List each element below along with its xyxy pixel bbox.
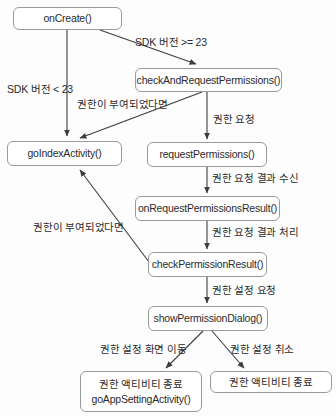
node-goindexactivity: goIndexActivity() — [7, 141, 122, 166]
node-onrequestpermissionsresult: onRequestPermissionsResult() — [135, 196, 280, 221]
node-goappsettingactivity-label-line2: goAppSettingActivity() — [92, 392, 191, 406]
node-oncreate: onCreate() — [13, 7, 122, 30]
node-checkandrequestpermissions-label: checkAndRequestPermissions() — [137, 73, 281, 87]
node-requestpermissions-label: requestPermissions() — [159, 147, 254, 161]
node-goindexactivity-label: goIndexActivity() — [27, 146, 101, 160]
node-goappsettingactivity: 권한 액티비티 종료 goAppSettingActivity() — [80, 371, 202, 412]
node-checkpermissionresult-label: checkPermissionResult() — [152, 257, 264, 271]
edge-label-permission-request: 권한 요청 — [213, 111, 255, 126]
node-checkpermissionresult: checkPermissionResult() — [148, 252, 267, 277]
node-requestpermissions: requestPermissions() — [147, 142, 267, 167]
node-goappsettingactivity-label-line1: 권한 액티비티 종료 — [99, 377, 183, 391]
edge-label-permission-granted-lower: 권한이 부여되었다면 — [33, 219, 124, 234]
edge-label-setting-cancel: 권한 설정 취소 — [230, 341, 294, 356]
edge-label-sdk-version-lt-23: SDK 버전 < 23 — [7, 81, 73, 96]
edge-label-permission-setting-request: 권한 설정 요청 — [212, 282, 276, 297]
node-finish-permission-activity: 권한 액티비티 종료 — [210, 371, 332, 393]
edge-label-sdk-version-ge-23: SDK 버전 >= 23 — [135, 34, 207, 49]
node-showpermissiondialog-label: showPermissionDialog() — [154, 311, 263, 325]
edge-label-request-result-received: 권한 요청 결과 수신 — [212, 170, 299, 185]
node-showpermissiondialog: showPermissionDialog() — [148, 306, 268, 331]
edge-label-permission-granted-upper: 권한이 부여되었다면 — [77, 96, 168, 111]
node-checkandrequestpermissions: checkAndRequestPermissions() — [135, 68, 282, 92]
edge-label-goto-setting-screen: 권한 설정 화면 이동 — [100, 341, 187, 356]
node-finish-permission-activity-label: 권한 액티비티 종료 — [229, 375, 313, 389]
node-onrequestpermissionsresult-label: onRequestPermissionsResult() — [138, 201, 277, 215]
node-oncreate-label: onCreate() — [43, 11, 91, 25]
permission-flowchart: onCreate() checkAndRequestPermissions() … — [0, 0, 336, 416]
edge-label-request-result-processed: 권한 요청 결과 처리 — [212, 224, 299, 239]
